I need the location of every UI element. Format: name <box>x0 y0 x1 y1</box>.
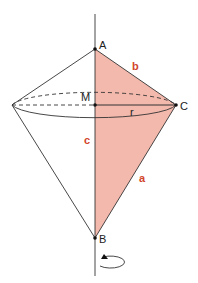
label-a: a <box>139 172 146 184</box>
edge-b-left <box>12 105 95 238</box>
point-C <box>174 103 178 107</box>
rotation-arrow-icon <box>100 254 125 268</box>
label-r: r <box>130 106 134 118</box>
point-A <box>93 47 97 51</box>
label-b: b <box>132 60 139 72</box>
label-c: c <box>84 134 90 146</box>
double-cone-diagram: A M C B b r c a <box>0 0 198 283</box>
label-C: C <box>180 100 188 112</box>
point-B <box>93 236 97 240</box>
label-A: A <box>99 39 107 51</box>
label-B: B <box>99 233 106 245</box>
point-M <box>93 103 97 107</box>
label-M: M <box>81 91 90 103</box>
